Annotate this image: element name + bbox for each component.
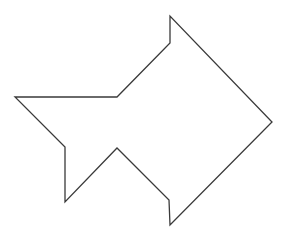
diagram-canvas — [0, 0, 289, 233]
fish-shape-polygon — [15, 16, 272, 225]
